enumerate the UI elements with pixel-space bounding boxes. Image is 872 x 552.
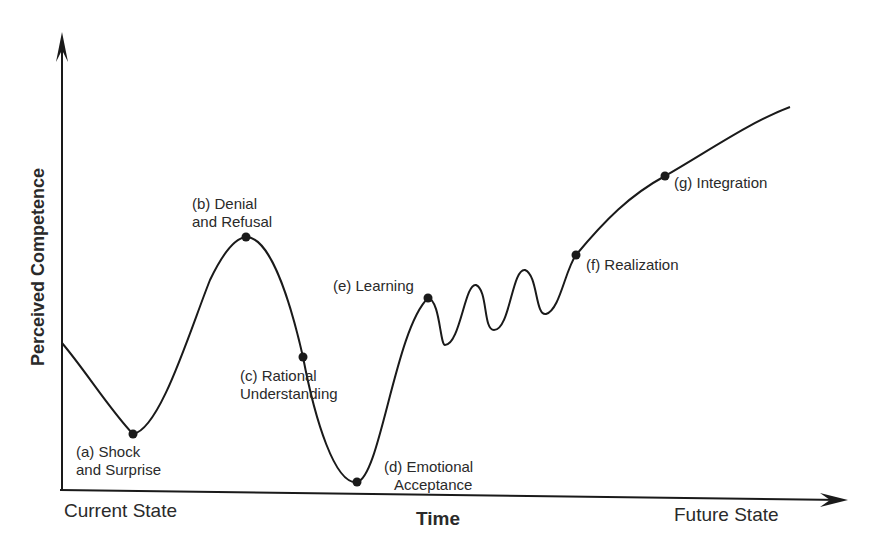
change-curve-diagram: Perceived Competence Current State Time …: [0, 0, 872, 552]
x-axis-label: Time: [416, 508, 460, 530]
stage-label-d: (d) Emotional Acceptance: [384, 458, 473, 494]
marker-d: [353, 478, 362, 487]
marker-g: [661, 172, 670, 181]
marker-c: [299, 353, 308, 362]
y-axis-label: Perceived Competence: [28, 168, 49, 366]
stage-g-line1: (g) Integration: [674, 174, 767, 192]
stage-c-line2: Understanding: [240, 385, 338, 403]
stage-a-line2: and Surprise: [76, 461, 161, 479]
stage-label-c: (c) Rational Understanding: [240, 367, 338, 403]
stage-c-line1: (c) Rational: [240, 367, 338, 385]
stage-b-line1: (b) Denial: [192, 195, 272, 213]
stage-d-line2: Acceptance: [384, 476, 473, 494]
stage-b-line2: and Refusal: [192, 213, 272, 231]
marker-e: [424, 294, 433, 303]
stage-a-line1: (a) Shock: [76, 443, 161, 461]
stage-label-e: (e) Learning: [333, 277, 414, 295]
stage-label-g: (g) Integration: [674, 174, 767, 192]
marker-f: [572, 251, 581, 260]
x-axis-end-label: Future State: [674, 504, 779, 526]
stage-label-b: (b) Denial and Refusal: [192, 195, 272, 231]
x-axis-start-label: Current State: [64, 500, 177, 522]
stage-f-line1: (f) Realization: [586, 256, 679, 274]
stage-d-line1: (d) Emotional: [384, 458, 473, 476]
stage-label-a: (a) Shock and Surprise: [76, 443, 161, 479]
marker-b: [242, 233, 251, 242]
y-axis: [56, 32, 68, 490]
stage-e-line1: (e) Learning: [333, 277, 414, 295]
stage-label-f: (f) Realization: [586, 256, 679, 274]
marker-a: [129, 430, 138, 439]
